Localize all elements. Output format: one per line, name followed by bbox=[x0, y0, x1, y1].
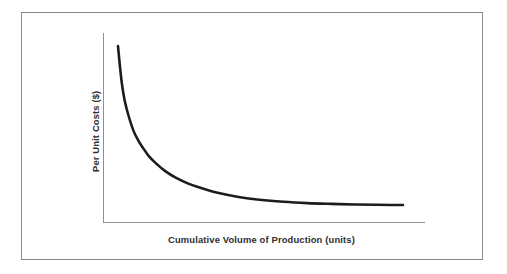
figure-root: Per Unit Costs ($) Cumulative Volume of … bbox=[0, 0, 507, 274]
x-axis-title: Cumulative Volume of Production (units) bbox=[168, 234, 355, 245]
y-axis-title: Per Unit Costs ($) bbox=[90, 91, 101, 172]
